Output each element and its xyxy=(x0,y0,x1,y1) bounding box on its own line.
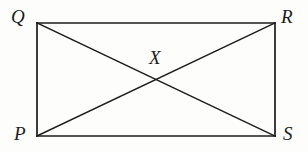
vertex-label-q: Q xyxy=(11,7,25,26)
geometry-figure: Q R S P X xyxy=(0,0,308,152)
intersection-label-x: X xyxy=(149,48,161,67)
vertex-label-r: R xyxy=(281,7,293,26)
geometry-canvas xyxy=(0,0,308,152)
vertex-label-p: P xyxy=(14,124,26,143)
vertex-label-s: S xyxy=(283,124,293,143)
